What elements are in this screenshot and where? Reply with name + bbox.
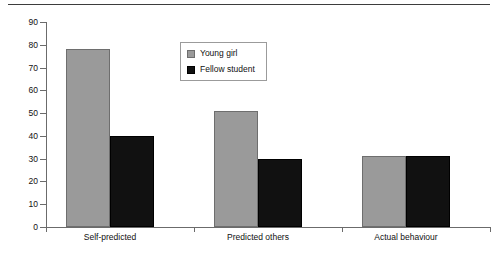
legend-item-fellow-student: Fellow student bbox=[187, 64, 255, 75]
x-tick-mark-1 bbox=[194, 227, 195, 232]
y-tick-label-30: 30 bbox=[0, 155, 38, 164]
legend-label-young-girl: Young girl bbox=[200, 49, 238, 58]
x-category-label-actual-behaviour: Actual behaviour bbox=[356, 233, 456, 242]
y-tick-label-10: 10 bbox=[0, 200, 38, 209]
legend-swatch-icon-fellow-student bbox=[187, 66, 195, 74]
y-tick-mark-90 bbox=[40, 22, 46, 23]
x-category-label-predicted-others: Predicted others bbox=[208, 233, 308, 242]
y-tick-label-80: 80 bbox=[0, 41, 38, 50]
y-tick-label-70: 70 bbox=[0, 64, 38, 73]
bar-fellow-student-actual-behaviour bbox=[406, 156, 450, 227]
legend-swatch-icon-young-girl bbox=[187, 50, 195, 58]
x-category-label-self-predicted: Self-predicted bbox=[60, 233, 160, 242]
y-tick-mark-70 bbox=[40, 68, 46, 69]
bar-young-girl-predicted-others bbox=[214, 111, 258, 227]
y-tick-label-50: 50 bbox=[0, 109, 38, 118]
y-tick-mark-10 bbox=[40, 204, 46, 205]
y-tick-mark-80 bbox=[40, 45, 46, 46]
y-tick-mark-30 bbox=[40, 159, 46, 160]
y-tick-mark-50 bbox=[40, 113, 46, 114]
y-tick-label-60: 60 bbox=[0, 86, 38, 95]
y-tick-label-40: 40 bbox=[0, 132, 38, 141]
x-tick-mark-3 bbox=[490, 227, 491, 232]
y-tick-mark-60 bbox=[40, 90, 46, 91]
bar-young-girl-actual-behaviour bbox=[362, 156, 406, 227]
x-tick-mark-0 bbox=[46, 227, 47, 232]
y-axis-line bbox=[46, 22, 47, 228]
x-tick-mark-2 bbox=[342, 227, 343, 232]
y-tick-label-20: 20 bbox=[0, 177, 38, 186]
bar-fellow-student-self-predicted bbox=[110, 136, 154, 227]
y-tick-label-0: 0 bbox=[0, 223, 38, 232]
bar-young-girl-self-predicted bbox=[66, 49, 110, 227]
legend-label-fellow-student: Fellow student bbox=[200, 65, 255, 74]
legend-item-young-girl: Young girl bbox=[187, 48, 238, 59]
y-tick-mark-20 bbox=[40, 181, 46, 182]
y-tick-mark-40 bbox=[40, 136, 46, 137]
y-tick-label-90: 90 bbox=[0, 18, 38, 27]
x-axis-line bbox=[46, 227, 490, 228]
page-rule-divider bbox=[8, 4, 490, 5]
bar-chart-figure: 90 80 70 60 50 40 30 20 10 0 Self-predic… bbox=[0, 0, 500, 255]
chart-legend: Young girl Fellow student bbox=[180, 42, 267, 81]
bar-fellow-student-predicted-others bbox=[258, 159, 302, 227]
